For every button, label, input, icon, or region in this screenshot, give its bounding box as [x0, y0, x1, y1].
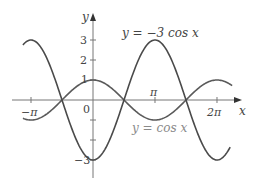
- y-tick-label-2: 2: [80, 54, 87, 67]
- label-cos-x: y = cos x: [131, 121, 187, 135]
- y-axis-arrow-icon: [90, 13, 96, 21]
- y-axis-label: y: [81, 10, 89, 24]
- x-axis-label: x: [239, 104, 246, 118]
- label-neg-3-cos-x: y = −3 cos x: [121, 26, 199, 40]
- x-tick-label-neg-pi: −π: [21, 106, 38, 119]
- y-tick-label-1: 1: [81, 73, 88, 86]
- x-tick-label-pi: π: [149, 86, 158, 99]
- y-tick-label-3: 3: [80, 34, 87, 47]
- cosine-chart: y x 0 3 2 1 −3 −π π 2π y = −3 cos x y = …: [0, 0, 257, 186]
- x-axis-arrow-icon: [234, 97, 242, 103]
- y-tick-label-neg3: −3: [74, 154, 90, 167]
- x-tick-label-2pi: 2π: [206, 106, 222, 119]
- origin-label: 0: [83, 103, 90, 116]
